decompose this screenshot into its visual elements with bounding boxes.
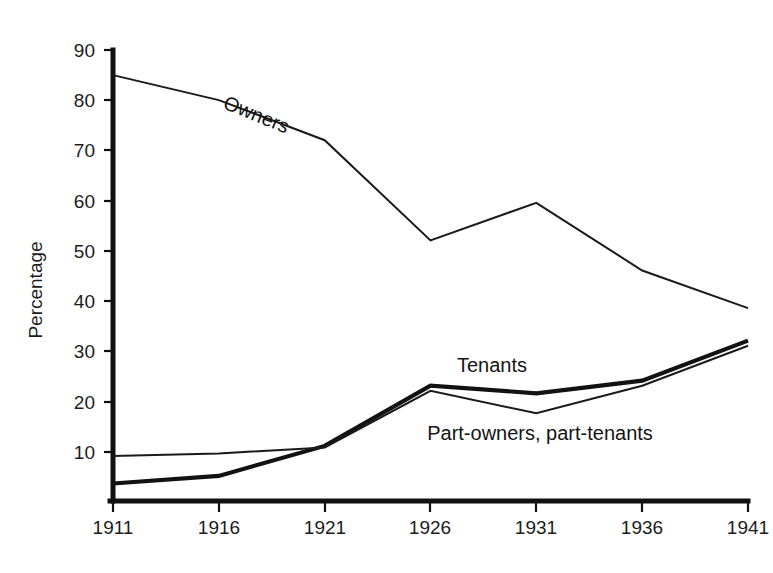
y-tick-label-20: 20 — [74, 392, 95, 413]
y-tick-label-50: 50 — [74, 241, 95, 262]
x-tick-label-1921: 1921 — [304, 517, 346, 538]
y-tick-label-70: 70 — [74, 140, 95, 161]
x-tick-label-1936: 1936 — [621, 517, 663, 538]
x-tick-label-1911: 1911 — [93, 517, 134, 538]
y-tick-label-10: 10 — [74, 442, 95, 463]
series-label-part-owners: Part-owners, part-tenants — [427, 422, 653, 444]
y-tick-label-80: 80 — [74, 90, 95, 111]
series-label-owners: Owners — [221, 91, 293, 137]
x-tick-label-1941: 1941 — [727, 517, 769, 538]
y-tick-label-90: 90 — [74, 40, 95, 61]
x-tick-label-1931: 1931 — [515, 517, 557, 538]
x-tick-label-1916: 1916 — [198, 517, 240, 538]
x-tick-label-1926: 1926 — [409, 517, 451, 538]
chart-figure: 90 80 70 60 50 40 30 20 10 Percentage 19… — [0, 0, 773, 573]
y-tick-label-40: 40 — [74, 291, 95, 312]
y-tick-label-30: 30 — [74, 341, 95, 362]
y-axis-title: Percentage — [25, 241, 46, 338]
y-tick-label-60: 60 — [74, 191, 95, 212]
series-label-tenants: Tenants — [457, 354, 527, 376]
series-line-tenants — [113, 341, 748, 484]
series-line-owners — [113, 75, 748, 308]
chart-canvas: 90 80 70 60 50 40 30 20 10 Percentage 19… — [0, 0, 773, 573]
